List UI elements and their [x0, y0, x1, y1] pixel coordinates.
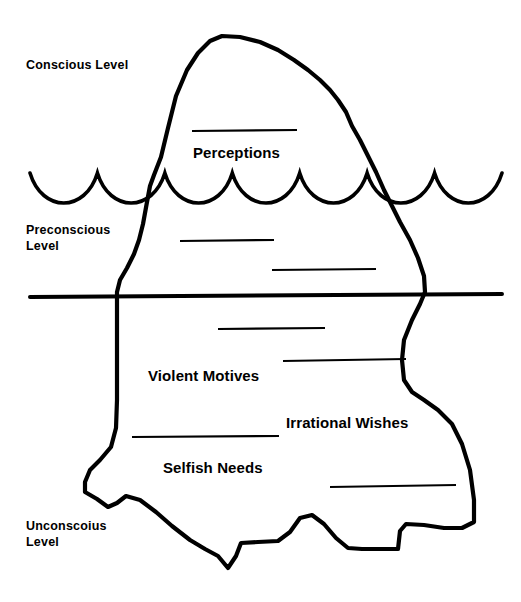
blank-answer-line[interactable]	[272, 269, 376, 270]
iceberg-outline	[85, 36, 474, 568]
blank-answer-line[interactable]	[283, 359, 406, 361]
blank-answer-line[interactable]	[132, 436, 279, 437]
level-label-unconscious: Unconscoius Level	[26, 518, 107, 550]
level-label-preconscious: Preconscious Level	[26, 222, 110, 254]
blank-answer-line[interactable]	[180, 240, 274, 241]
iceberg-diagram-canvas	[0, 0, 521, 602]
blank-answer-line[interactable]	[192, 130, 297, 131]
concept-label-irrational-wishes: Irrational Wishes	[286, 414, 408, 432]
preconscious-unconscious-divider-line	[30, 294, 502, 297]
blank-answer-line[interactable]	[218, 328, 325, 329]
blank-answer-line[interactable]	[330, 485, 456, 487]
concept-label-violent-motives: Violent Motives	[148, 367, 259, 385]
iceberg-worksheet: Conscious Level Preconscious Level Uncon…	[0, 0, 521, 602]
concept-label-perceptions: Perceptions	[193, 144, 280, 162]
water-surface-line	[30, 173, 502, 203]
level-label-conscious: Conscious Level	[26, 57, 128, 73]
concept-label-selfish-needs: Selfish Needs	[163, 459, 263, 477]
